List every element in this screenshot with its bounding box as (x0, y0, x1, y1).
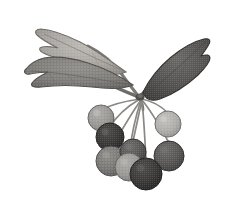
illustration-canvas: Grayscale halftone botanical illustratio… (0, 0, 228, 203)
botanical-illustration-svg (0, 0, 228, 203)
stem-junction-node (135, 93, 144, 100)
berry-center-lower (130, 158, 162, 190)
berry-upper-right (155, 111, 181, 137)
